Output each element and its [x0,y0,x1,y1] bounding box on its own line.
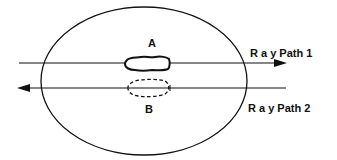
ray-path-1-arrowhead-icon [274,59,287,67]
object-a-shape [125,57,170,71]
ray-path-2-label: R a y Path 2 [248,102,310,114]
body-ellipse [41,7,247,155]
object-b-label: B [145,103,153,115]
ray-path-diagram: A B R a y Path 1 R a y Path 2 [0,0,337,160]
ray-path-2-arrowhead-icon [17,84,30,92]
ray-path-1-label: R a y Path 1 [250,47,312,59]
object-a-label: A [148,37,156,49]
